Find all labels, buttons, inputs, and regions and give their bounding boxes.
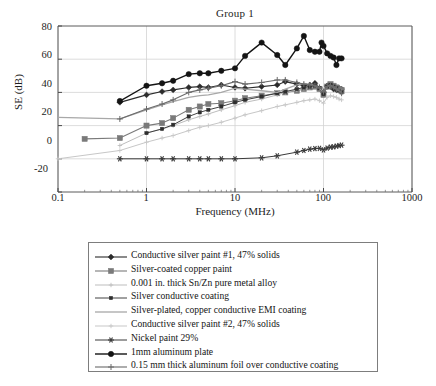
legend-marker-icon xyxy=(94,249,128,261)
legend-item[interactable]: 0.15 mm thick aluminum foil over conduct… xyxy=(94,358,338,372)
legend-marker-icon xyxy=(94,359,128,371)
legend-item-label: Conductive silver paint #1, 47% solids xyxy=(128,249,280,261)
legend-item[interactable]: Conductive silver paint #2, 47% solids xyxy=(94,317,280,331)
plot-area xyxy=(0,0,436,230)
legend-item-label: Silver-plated, copper conductive EMI coa… xyxy=(128,304,306,316)
legend-item[interactable]: Silver-coated copper paint xyxy=(94,262,232,276)
legend-item-label: Conductive silver paint #2, 47% solids xyxy=(128,318,280,330)
legend-item-label: Silver-coated copper paint xyxy=(128,263,232,275)
legend-item-label: Nickel paint 29% xyxy=(128,332,198,344)
series-1 xyxy=(82,82,344,142)
legend-item-label: 0.15 mm thick aluminum foil over conduct… xyxy=(128,359,338,371)
legend-marker-icon xyxy=(94,290,128,302)
chart-legend: Conductive silver paint #1, 47% solidsSi… xyxy=(88,242,378,372)
legend-item[interactable]: Silver-plated, copper conductive EMI coa… xyxy=(94,303,306,317)
legend-marker-icon xyxy=(94,304,128,316)
legend-item[interactable]: Silver conductive coating xyxy=(94,289,229,303)
legend-item[interactable]: 0.001 in. thick Sn/Zn pure metal alloy xyxy=(94,276,277,290)
legend-item[interactable]: Nickel paint 29% xyxy=(94,331,198,345)
legend-item[interactable]: 1mm aluminum plate xyxy=(94,345,213,359)
legend-marker-icon xyxy=(94,263,128,275)
legend-item-label: Silver conductive coating xyxy=(128,290,229,302)
series-2 xyxy=(118,84,344,148)
legend-item-label: 1mm aluminum plate xyxy=(128,346,213,358)
legend-marker-icon xyxy=(94,277,128,289)
legend-item-label: 0.001 in. thick Sn/Zn pure metal alloy xyxy=(128,277,277,289)
series-7 xyxy=(117,33,344,103)
chart-figure: Group 1 SE (dB) Frequency (MHz) 80 60 40… xyxy=(0,0,436,386)
legend-marker-icon xyxy=(94,318,128,330)
legend-marker-icon xyxy=(94,332,128,344)
legend-marker-icon xyxy=(94,346,128,358)
legend-item[interactable]: Conductive silver paint #1, 47% solids xyxy=(94,248,280,262)
